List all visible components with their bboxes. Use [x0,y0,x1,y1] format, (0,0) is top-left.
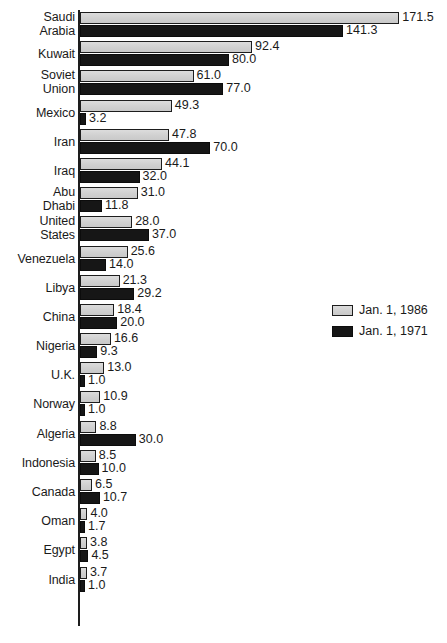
bar-1986 [80,567,87,579]
chart-row: Norway10.91.0 [0,391,447,420]
legend-item: Jan. 1, 1986 [332,302,428,319]
bar-value-label: 171.5 [399,11,433,25]
category-label: Canada [0,486,75,500]
chart-row: Iraq44.132.0 [0,158,447,187]
bar-1986 [80,216,132,228]
bar-value-label: 10.7 [100,491,127,505]
bar-1986 [80,508,87,520]
bar-1986 [80,41,252,53]
bar-value-label: 77.0 [223,82,250,96]
chart-row: Abu Dhabi31.011.8 [0,187,447,216]
bar-1971 [80,229,149,241]
bar-value-label: 141.3 [343,24,377,38]
bar-1971 [80,25,343,37]
bar-1986 [80,304,114,316]
bar-value-label: 37.0 [149,228,176,242]
bar-1971 [80,142,210,154]
legend-swatch-1986-icon [332,305,353,316]
bar-1971 [80,434,136,446]
bar-value-label: 80.0 [229,53,256,67]
bar-1971 [80,171,140,183]
category-label: Nigeria [0,340,75,354]
bar-value-label: 31.0 [138,186,165,200]
legend-swatch-1971-icon [332,326,353,337]
bar-value-label: 1.0 [85,403,105,417]
bar-1971 [80,550,88,562]
chart-row: Libya21.329.2 [0,275,447,304]
category-label: Abu Dhabi [0,186,75,213]
bar-1986 [80,100,172,112]
bar-1986 [80,479,92,491]
bar-value-label: 29.2 [134,287,161,301]
category-label: Kuwait [0,48,75,62]
bar-value-label: 61.0 [194,69,221,83]
chart-row: Algeria8.830.0 [0,421,447,450]
bar-1971 [80,492,100,504]
bar-value-label: 20.0 [117,316,144,330]
bar-1971 [80,463,99,475]
bar-1986 [80,275,120,287]
bar-1971 [80,346,97,358]
bar-1971 [80,259,106,271]
chart-row: Egypt3.84.5 [0,537,447,566]
bar-value-label: 92.4 [252,40,279,54]
category-label: Indonesia [0,457,75,471]
bar-1986 [80,537,87,549]
chart-row: Indonesia8.510.0 [0,450,447,479]
bar-1971 [80,83,223,95]
legend-label-1986: Jan. 1, 1986 [359,304,428,317]
bar-chart: Saudi Arabia171.5141.3Kuwait92.480.0Sovi… [0,0,447,643]
category-label: Soviet Union [0,69,75,96]
category-label: Norway [0,398,75,412]
category-label: Iran [0,136,75,150]
category-label: Oman [0,515,75,529]
bar-value-label: 30.0 [136,433,163,447]
bar-1971 [80,317,117,329]
bar-value-label: 49.3 [172,99,199,113]
bar-value-label: 13.0 [104,361,131,375]
bar-value-label: 70.0 [210,141,237,155]
chart-row: United States28.037.0 [0,216,447,245]
bar-value-label: 11.8 [102,199,128,213]
bar-value-label: 1.0 [85,579,105,593]
bar-value-label: 3.2 [86,112,106,126]
chart-row: Iran47.870.0 [0,129,447,158]
bar-value-label: 32.0 [140,170,167,184]
legend-item: Jan. 1, 1971 [332,323,428,340]
category-label: Egypt [0,544,75,558]
category-label: Algeria [0,428,75,442]
category-label: China [0,311,75,325]
category-label: U.K. [0,369,75,383]
bar-value-label: 10.0 [99,462,126,476]
chart-row: India3.71.0 [0,567,447,596]
category-label: Mexico [0,107,75,121]
bar-1986 [80,450,96,462]
bar-value-label: 8.8 [96,420,116,434]
category-label: Libya [0,282,75,296]
bar-value-label: 14.0 [106,258,133,272]
bar-value-label: 1.0 [85,374,105,388]
chart-row: Saudi Arabia171.5141.3 [0,12,447,41]
legend-label-1971: Jan. 1, 1971 [359,325,428,338]
bar-value-label: 9.3 [97,345,117,359]
chart-row: Mexico49.33.2 [0,100,447,129]
bar-value-label: 47.8 [169,128,196,142]
category-label: India [0,574,75,588]
chart-row: U.K.13.01.0 [0,362,447,391]
category-label: Saudi Arabia [0,11,75,38]
bar-value-label: 4.5 [88,549,108,563]
bar-1971 [80,200,102,212]
bar-1986 [80,129,169,141]
chart-row: Kuwait92.480.0 [0,41,447,70]
bar-1971 [80,54,229,66]
chart-legend: Jan. 1, 1986 Jan. 1, 1971 [332,302,428,344]
bar-value-label: 25.6 [128,245,155,259]
bar-1986 [80,421,96,433]
bar-1986 [80,70,194,82]
category-label: United States [0,215,75,242]
bar-value-label: 1.7 [85,520,105,534]
chart-row: Venezuela25.614.0 [0,246,447,275]
chart-row: Soviet Union61.077.0 [0,70,447,99]
category-label: Iraq [0,165,75,179]
bar-1986 [80,246,128,258]
